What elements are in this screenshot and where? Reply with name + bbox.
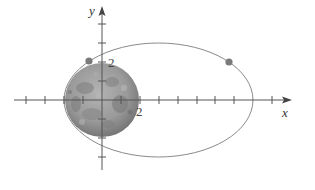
x-axis-label: x [281, 105, 288, 120]
satellite-position-2 [225, 58, 232, 65]
y-axis-label: y [87, 3, 95, 18]
x-axis [14, 96, 288, 104]
orbit-diagram: x y 2 2 [0, 0, 315, 190]
x-tick-label-2: 2 [136, 104, 143, 119]
y-tick-label-2: 2 [108, 55, 115, 70]
satellite-position-1 [85, 57, 92, 64]
